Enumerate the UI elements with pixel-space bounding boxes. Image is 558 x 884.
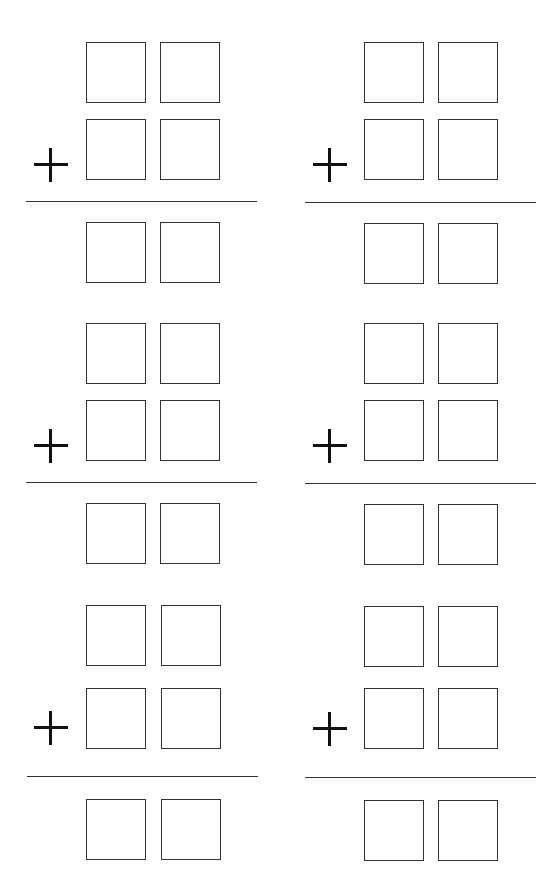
answer-ones-box[interactable] [438, 504, 498, 565]
addend2-ones-box[interactable] [160, 400, 220, 461]
sum-line [305, 202, 536, 203]
addend1-tens-box[interactable] [364, 606, 424, 667]
sum-line [305, 777, 536, 778]
addend1-ones-box[interactable] [438, 323, 498, 384]
addend1-ones-box[interactable] [438, 606, 498, 667]
addend2-tens-box[interactable] [364, 400, 424, 461]
answer-ones-box[interactable] [438, 223, 498, 284]
answer-ones-box[interactable] [438, 800, 498, 861]
addend1-ones-box[interactable] [438, 42, 498, 103]
plus-icon: + [313, 429, 347, 463]
addend1-tens-box[interactable] [86, 323, 146, 384]
sum-line [27, 776, 258, 777]
addend2-ones-box[interactable] [438, 119, 498, 180]
plus-icon: + [34, 429, 68, 463]
plus-icon: + [34, 711, 68, 745]
addend2-tens-box[interactable] [86, 688, 146, 749]
addend2-ones-box[interactable] [438, 400, 498, 461]
answer-tens-box[interactable] [364, 504, 424, 565]
addend1-tens-box[interactable] [364, 42, 424, 103]
answer-tens-box[interactable] [364, 223, 424, 284]
plus-icon: + [313, 148, 347, 182]
addend1-tens-box[interactable] [364, 323, 424, 384]
addend2-tens-box[interactable] [364, 119, 424, 180]
addend2-tens-box[interactable] [364, 688, 424, 749]
answer-tens-box[interactable] [364, 800, 424, 861]
sum-line [305, 483, 536, 484]
addend1-ones-box[interactable] [161, 605, 221, 666]
plus-icon: + [313, 712, 347, 746]
addend2-ones-box[interactable] [438, 688, 498, 749]
addend1-tens-box[interactable] [86, 605, 146, 666]
answer-ones-box[interactable] [161, 799, 221, 860]
addend1-ones-box[interactable] [160, 323, 220, 384]
answer-ones-box[interactable] [160, 503, 220, 564]
sum-line [26, 482, 257, 483]
addition-problem-6: + [0, 0, 240, 260]
answer-tens-box[interactable] [86, 799, 146, 860]
answer-tens-box[interactable] [86, 503, 146, 564]
addend2-ones-box[interactable] [161, 688, 221, 749]
addend2-tens-box[interactable] [86, 400, 146, 461]
